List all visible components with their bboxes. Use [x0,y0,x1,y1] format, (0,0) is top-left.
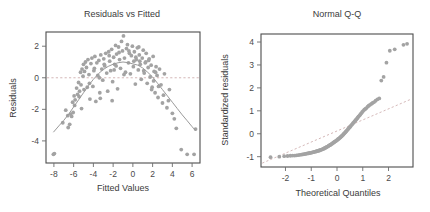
data-point [117,45,121,49]
data-point [377,97,381,101]
data-point [141,48,145,52]
data-point [137,53,141,57]
data-point [144,51,148,55]
data-point [132,50,136,54]
x-tick-label: -1 [307,173,315,183]
data-point [70,115,74,119]
x-tick-label: 4 [170,169,175,179]
data-point [144,60,148,64]
data-point [172,117,176,121]
data-point [162,93,166,97]
data-point [101,78,105,82]
data-point [156,96,160,100]
data-point [80,107,84,111]
y-tick-label: 0 [34,73,39,83]
y-tick-label: 0 [249,129,254,139]
y-tick-label: 3 [249,60,254,70]
data-point [158,67,162,71]
data-point [117,51,121,55]
x-tick-label: 0 [131,169,136,179]
data-point [163,72,167,76]
data-point [130,44,134,48]
data-point [145,81,149,85]
data-point [123,56,127,60]
y-tick-label: 4 [249,37,254,47]
data-point [102,62,106,66]
data-point [269,155,273,159]
data-point [161,101,165,105]
data-point [94,100,98,104]
x-tick-label: -4 [90,169,98,179]
x-tick-label: -2 [282,173,290,183]
panel-title-normal-qq: Normal Q-Q [313,9,362,19]
x-tick-label: 2 [150,169,155,179]
data-point [52,152,56,156]
y-tick-label: 2 [249,83,254,93]
data-point [86,58,90,62]
data-point [185,152,189,156]
data-point [72,94,76,98]
data-point [402,43,406,47]
data-point [85,66,89,70]
data-point [129,54,133,58]
data-point [132,59,136,63]
data-point [138,59,142,63]
y-tick-label: 2 [34,41,39,51]
x-axis-title-fitted-values: Fitted Values [97,183,149,193]
data-point [105,71,109,75]
data-point [154,65,158,69]
y-tick-label: -2 [31,104,39,114]
data-point [174,126,178,130]
data-point [88,97,92,101]
data-point [107,54,111,58]
data-point [385,61,389,65]
data-point [79,83,83,87]
y-tick-label: -1 [246,152,254,162]
data-point [382,75,386,79]
panel-title-residuals-vs-fitted: Residuals vs Fitted [84,9,160,19]
y-tick-label: 1 [249,106,254,116]
data-point [126,43,130,47]
data-point [64,108,68,112]
data-point [122,73,126,77]
data-point [109,69,113,73]
data-point [121,49,125,53]
data-point [277,155,281,159]
y-axis-title-residuals: Residuals [8,78,18,118]
data-point [139,77,143,81]
data-point [282,154,286,158]
x-tick-label: 1 [360,173,365,183]
x-axis-title-theoretical-quantiles: Theoretical Quantiles [295,188,381,198]
data-point [133,82,137,86]
y-axis-title-standardized-residuals: Standardized residuals [220,54,230,146]
data-point [110,99,114,103]
data-point [81,74,85,78]
data-point [78,89,82,93]
x-tick-label: 0 [335,173,340,183]
data-point [73,98,77,102]
data-point [91,85,95,89]
data-point [146,66,150,70]
data-point [112,55,116,59]
data-point [154,70,158,74]
data-point [106,89,110,93]
data-point [111,80,115,84]
data-point [110,47,114,51]
data-point [89,62,93,66]
data-point [388,49,392,53]
data-point [118,58,122,62]
data-point [119,66,123,70]
data-point [151,55,155,59]
data-point [114,64,118,68]
data-point [68,122,72,126]
data-point [134,55,138,59]
data-point [170,111,174,115]
x-tick-label: 2 [386,173,391,183]
data-point [129,72,133,76]
data-point [102,57,106,61]
data-point [136,68,140,72]
data-point [71,111,75,115]
data-point [98,91,102,95]
data-point [127,49,131,53]
y-tick-label: -4 [31,136,39,146]
